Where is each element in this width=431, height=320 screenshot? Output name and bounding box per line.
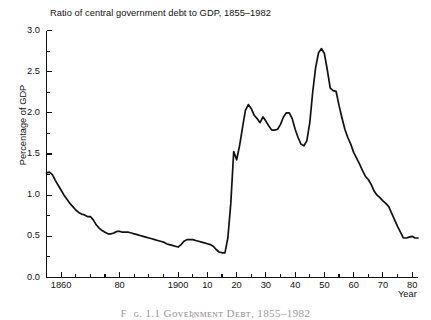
- debt-to-gdp-line: [47, 49, 419, 253]
- plot-area: [0, 0, 431, 320]
- x-axis-ticks: [47, 272, 413, 278]
- chart-figure: Ratio of central government debt to GDP,…: [0, 0, 431, 320]
- figure-caption: Fɪɢ. 1.1 Gᴏᴠᴇʀɴᴍᴇɴᴛ Dᴇʙᴛ, 1855–1982: [0, 307, 431, 320]
- y-axis-ticks: [47, 31, 52, 278]
- axes-lines: [47, 31, 419, 278]
